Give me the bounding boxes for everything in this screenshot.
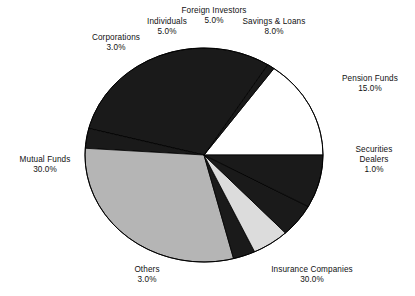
pie-chart: Corporations 3.0% Individuals 5.0% Forei… — [0, 0, 415, 296]
label-securities-dealers-name-line1: Securities — [338, 145, 410, 155]
label-pension-funds: Pension Funds 15.0% — [330, 74, 410, 94]
label-others-value: 3.0% — [120, 275, 174, 285]
label-corporations-value: 3.0% — [70, 43, 162, 53]
label-insurance-companies-name: Insurance Companies — [252, 265, 372, 275]
label-others: Others 3.0% — [120, 265, 174, 285]
label-individuals-value: 5.0% — [132, 27, 202, 37]
label-mutual-funds: Mutual Funds 30.0% — [4, 155, 86, 175]
label-insurance-companies: Insurance Companies 30.0% — [252, 265, 372, 285]
label-mutual-funds-name: Mutual Funds — [4, 155, 86, 165]
label-securities-dealers: Securities Dealers 1.0% — [338, 145, 410, 176]
label-insurance-companies-value: 30.0% — [252, 275, 372, 285]
label-pension-funds-value: 15.0% — [330, 84, 410, 94]
label-savings-and-loans-name: Savings & Loans — [228, 17, 320, 27]
label-mutual-funds-value: 30.0% — [4, 165, 86, 175]
label-securities-dealers-name-line2: Dealers — [338, 155, 410, 165]
label-others-name: Others — [120, 265, 174, 275]
label-savings-and-loans: Savings & Loans 8.0% — [228, 17, 320, 37]
pie-slice-group — [85, 48, 323, 262]
label-savings-and-loans-value: 8.0% — [228, 27, 320, 37]
label-securities-dealers-value: 1.0% — [338, 165, 410, 175]
label-foreign-investors-name: Foreign Investors — [168, 6, 260, 16]
label-pension-funds-name: Pension Funds — [330, 74, 410, 84]
